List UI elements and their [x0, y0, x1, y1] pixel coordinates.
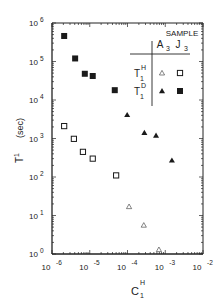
legend-column-sub: 3: [166, 45, 170, 52]
data-point-filled-triangle: [169, 157, 175, 162]
x-axis-sup: H: [140, 279, 145, 286]
data-point-filled-square: [72, 55, 78, 61]
y-tick-label: 101: [29, 209, 44, 221]
x-tick-labels: 10-610-510-410-310-2: [42, 259, 214, 272]
x-tick-base: 10: [117, 263, 126, 272]
x-tick-label: 10-2: [193, 259, 214, 272]
y-tick-label: 105: [29, 55, 44, 67]
legend-marker-open-square: [177, 70, 182, 75]
data-point-filled-square: [112, 87, 118, 93]
x-tick-exponent: -5: [94, 259, 100, 266]
data-point-open-square: [114, 173, 119, 178]
y-tick-exponent: 3: [40, 132, 44, 139]
data-point-open-square: [71, 136, 76, 141]
y-axis-title: T1: [13, 153, 25, 163]
legend-row-sub: 1: [140, 93, 144, 100]
data-point-open-square: [62, 123, 67, 128]
legend-marker-filled-triangle: [159, 88, 165, 93]
x-tick-exponent: -3: [169, 259, 175, 266]
legend-column-header: J: [176, 39, 181, 50]
series-open-triangle: [126, 204, 161, 252]
data-point-filled-square: [90, 73, 96, 79]
data-points: [61, 33, 175, 252]
y-tick-base: 10: [29, 212, 38, 221]
data-point-open-square: [80, 149, 85, 154]
y-tick-base: 10: [29, 135, 38, 144]
x-tick-label: 10-5: [79, 259, 100, 272]
x-tick-exponent: -2: [207, 259, 213, 266]
y-tick-label: 102: [29, 170, 44, 182]
x-tick-base: 10: [193, 263, 202, 272]
y-tick-base: 10: [29, 58, 38, 67]
series-filled-square: [61, 33, 118, 93]
chart: 10-610-510-410-310-2 1001011021031041051…: [0, 0, 223, 308]
y-tick-base: 10: [29, 19, 38, 28]
legend-row-sup: D: [141, 82, 146, 89]
data-point-filled-square: [61, 33, 67, 39]
x-axis-title: C: [131, 285, 139, 297]
legend-marker-filled-square: [177, 88, 183, 94]
legend-column-sub: 3: [184, 45, 188, 52]
legend-column-header: A: [157, 39, 164, 50]
y-tick-exponent: 5: [40, 55, 44, 62]
x-tick-base: 10: [42, 263, 51, 272]
y-tick-exponent: 0: [40, 247, 44, 254]
x-tick-label: 10-6: [42, 259, 63, 272]
y-tick-exponent: 1: [40, 209, 44, 216]
legend-row-sub: 1: [140, 75, 144, 82]
y-tick-exponent: 6: [40, 16, 44, 23]
data-point-filled-triangle: [124, 112, 130, 117]
series-filled-triangle: [124, 112, 175, 163]
x-tick-base: 10: [79, 263, 88, 272]
y-tick-base: 10: [29, 250, 38, 259]
y-tick-labels: 100101102103104105106: [29, 16, 44, 259]
data-point-filled-square: [82, 71, 88, 77]
data-point-open-triangle: [141, 223, 146, 228]
data-point-filled-triangle: [153, 132, 159, 137]
legend-header: SAMPLE: [166, 29, 198, 38]
legend-row-sup: H: [141, 64, 146, 71]
y-axis-label: (sec) T1: [13, 118, 25, 163]
y-tick-exponent: 2: [40, 170, 44, 177]
x-axis-label: C 1H: [131, 279, 145, 299]
data-point-open-triangle: [156, 247, 161, 252]
y-axis-unit: (sec): [15, 118, 25, 138]
y-tick-base: 10: [29, 96, 38, 105]
y-tick-label: 104: [29, 93, 44, 105]
y-tick-label: 106: [29, 16, 44, 28]
x-tick-exponent: -4: [132, 259, 138, 266]
x-axis-sub: 1: [140, 292, 144, 299]
legend: SAMPLE A3J3T1HT1D: [130, 29, 198, 106]
legend-marker-open-triangle: [159, 70, 164, 75]
data-point-open-square: [90, 156, 95, 161]
x-tick-exponent: -6: [56, 259, 62, 266]
x-tick-label: 10-3: [155, 259, 176, 272]
x-tick-base: 10: [155, 263, 164, 272]
y-tick-label: 103: [29, 132, 44, 144]
data-point-open-triangle: [126, 204, 131, 209]
y-tick-base: 10: [29, 173, 38, 182]
data-point-filled-triangle: [141, 130, 147, 135]
y-tick-label: 100: [29, 247, 44, 259]
x-tick-label: 10-4: [117, 259, 138, 272]
y-tick-exponent: 4: [40, 93, 44, 100]
series-open-square: [62, 123, 119, 178]
